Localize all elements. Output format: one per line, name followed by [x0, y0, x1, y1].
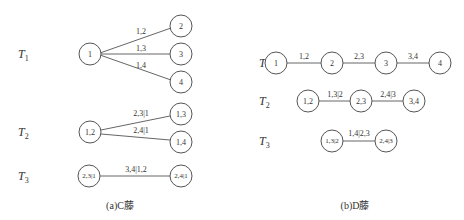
edge-label: 3,4|1,2 — [125, 165, 147, 174]
node: 1,2 — [297, 90, 319, 112]
c-vine-tree-1: T1 1,2 1,3 1,4 1 2 3 4 — [18, 15, 192, 93]
edge-label: 2,3|1 — [133, 109, 149, 118]
node: 2 — [321, 52, 343, 74]
svg-text:4: 4 — [179, 78, 183, 87]
node: 4 — [429, 52, 451, 74]
caption-c-vine: (a)C藤 — [106, 200, 134, 212]
node: 2,4|1 — [170, 165, 192, 187]
edge-label: 1,3|2 — [327, 90, 343, 99]
node: 3,4 — [403, 90, 425, 112]
edge-label: 1,4|2,3 — [348, 129, 370, 138]
d-vine-tree-2: T2 1,3|2 2,4|3 1,2 2,3 3,4 — [259, 90, 425, 112]
d-vine-tree-3: T3 1,4|2,3 1,3|2 2,4|3 — [259, 129, 397, 152]
node: 2,3 — [350, 90, 372, 112]
svg-text:2,3|1: 2,3|1 — [82, 172, 96, 180]
tree-label-t2: T2 — [18, 125, 29, 141]
node: 3 — [375, 52, 397, 74]
tree-label-t2: T2 — [259, 94, 270, 110]
svg-text:1,2: 1,2 — [85, 128, 95, 137]
svg-text:3: 3 — [384, 59, 388, 68]
tree-label-t3: T3 — [259, 134, 270, 150]
svg-text:1: 1 — [274, 59, 278, 68]
node: 3 — [170, 43, 192, 65]
caption-d-vine: (b)D藤 — [341, 200, 370, 212]
svg-text:2,4|1: 2,4|1 — [174, 172, 188, 180]
d-vine: T1 1,2 2,3 3,4 1 2 3 4 T2 1,3|2 2,4|3 1,… — [259, 52, 451, 212]
svg-text:2,4|3: 2,4|3 — [379, 137, 393, 145]
svg-text:2: 2 — [330, 59, 334, 68]
node: 1,4 — [170, 131, 192, 153]
svg-text:4: 4 — [438, 59, 442, 68]
edge-label: 1,4 — [136, 61, 146, 70]
node: 1 — [265, 52, 287, 74]
c-vine-tree-3: T3 3,4|1,2 2,3|1 2,4|1 — [18, 165, 192, 187]
svg-text:3,4: 3,4 — [409, 97, 419, 106]
node: 2,3|1 — [78, 165, 100, 187]
svg-text:1,2: 1,2 — [303, 97, 313, 106]
svg-text:2: 2 — [179, 22, 183, 31]
node: 2,4|3 — [375, 130, 397, 152]
svg-text:1,3|2: 1,3|2 — [325, 137, 339, 145]
svg-text:1,4: 1,4 — [176, 138, 186, 147]
vine-diagram: T1 1,2 1,3 1,4 1 2 3 4 T2 2,3|1 2,4|1 1,… — [0, 0, 464, 220]
edge-label: 1,2 — [136, 27, 146, 36]
node: 2 — [170, 15, 192, 37]
tree-label-t3: T3 — [18, 169, 29, 185]
edge-label: 2,4|1 — [133, 126, 149, 135]
d-vine-tree-1: T1 1,2 2,3 3,4 1 2 3 4 — [259, 52, 451, 74]
svg-text:1: 1 — [88, 50, 92, 59]
svg-text:3: 3 — [179, 50, 183, 59]
edge-label: 2,4|3 — [380, 90, 396, 99]
node: 1,2 — [79, 121, 101, 143]
edge-label: 1,3 — [136, 44, 146, 53]
svg-text:2,3: 2,3 — [356, 97, 366, 106]
edge-label: 3,4 — [408, 52, 418, 61]
svg-text:1,3: 1,3 — [176, 110, 186, 119]
edge-label: 1,2 — [299, 52, 309, 61]
node: 4 — [170, 71, 192, 93]
tree-label-t1: T1 — [18, 47, 29, 63]
node: 1 — [79, 43, 101, 65]
c-vine-tree-2: T2 2,3|1 2,4|1 1,2 1,3 1,4 — [18, 103, 192, 153]
edge-label: 2,3 — [354, 52, 364, 61]
c-vine: T1 1,2 1,3 1,4 1 2 3 4 T2 2,3|1 2,4|1 1,… — [18, 15, 192, 212]
node: 1,3 — [170, 103, 192, 125]
node: 1,3|2 — [321, 130, 343, 152]
